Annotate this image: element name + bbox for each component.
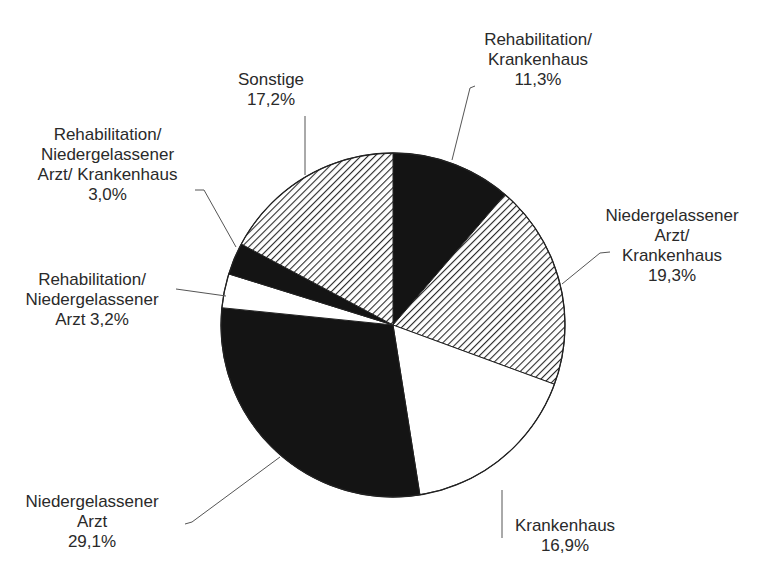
slice-label-rehab-na-kh: Rehabilitation/NiedergelassenerArzt/ Kra…	[20, 125, 195, 205]
slice-label-line: Niedergelassener	[12, 290, 172, 310]
slice-label-line: Krankenhaus	[500, 516, 630, 536]
leader-line-rehab-na-kh	[195, 190, 236, 247]
slice-label-line: 3,0%	[20, 185, 195, 205]
slice-label-sonstige: Sonstige17,2%	[221, 70, 321, 110]
slice-label-line: Arzt/	[592, 226, 752, 246]
slice-label-na-kh: NiedergelassenerArzt/Krankenhaus19,3%	[592, 206, 752, 286]
slice-label-line: Rehabilitation/	[463, 30, 613, 50]
slice-label-rehab-na: Rehabilitation/NiedergelassenerArzt 3,2%	[12, 270, 172, 330]
pie-slices	[221, 153, 565, 497]
slice-label-line: Rehabilitation/	[12, 270, 172, 290]
slice-label-line: 19,3%	[592, 266, 752, 286]
slice-label-line: 16,9%	[500, 536, 630, 556]
slice-label-line: Niedergelassener	[12, 492, 172, 512]
slice-label-line: Arzt 3,2%	[12, 310, 172, 330]
slice-label-line: Krankenhaus	[463, 50, 613, 70]
leader-line-rehab-na	[176, 289, 226, 296]
slice-label-line: Arzt/ Krankenhaus	[20, 165, 195, 185]
slice-label-line: 11,3%	[463, 70, 613, 90]
pie-slice	[221, 308, 420, 497]
slice-label-na: NiedergelassenerArzt29,1%	[12, 492, 172, 552]
slice-label-line: 29,1%	[12, 532, 172, 552]
slice-label-line: Niedergelassener	[20, 145, 195, 165]
slice-label-rehab-kh: Rehabilitation/Krankenhaus11,3%	[463, 30, 613, 90]
slice-label-kh: Krankenhaus16,9%	[500, 516, 630, 556]
slice-label-line: Sonstige	[221, 70, 321, 90]
slice-label-line: Rehabilitation/	[20, 125, 195, 145]
slice-label-line: Niedergelassener	[592, 206, 752, 226]
leader-line-rehab-kh	[452, 86, 475, 160]
slice-label-line: Krankenhaus	[592, 246, 752, 266]
slice-label-line: 17,2%	[221, 90, 321, 110]
slice-label-line: Arzt	[12, 512, 172, 532]
leader-line-na	[185, 457, 280, 524]
